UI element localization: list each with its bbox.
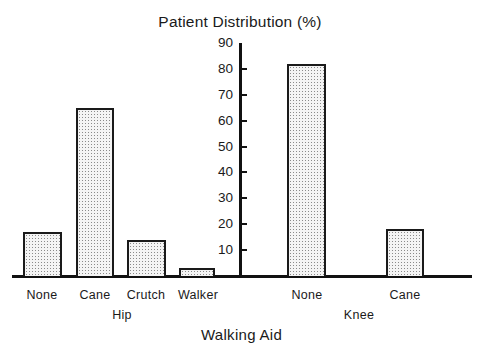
y-tick-mark — [241, 146, 247, 148]
bar-hip-walker — [179, 268, 215, 276]
y-tick-mark — [241, 249, 247, 251]
category-label-hip-none: None — [12, 288, 72, 302]
y-tick-label: 10 — [193, 243, 233, 257]
bar-knee-none — [287, 64, 326, 276]
bar-hip-cane — [76, 108, 114, 276]
y-tick-mark — [241, 223, 247, 225]
y-tick-mark — [241, 94, 247, 96]
category-label-hip-walker: Walker — [168, 288, 228, 302]
x-axis-title: Walking Aid — [0, 326, 483, 343]
y-tick-mark — [241, 120, 247, 122]
y-tick-label: 40 — [193, 165, 233, 179]
bar-hip-none — [23, 232, 62, 276]
bar-hip-crutch — [127, 240, 166, 276]
group-label-hip: Hip — [92, 308, 152, 322]
y-tick-mark — [241, 197, 247, 199]
y-tick-label: 80 — [193, 62, 233, 76]
bar-knee-cane — [386, 229, 424, 276]
y-tick-label: 70 — [193, 88, 233, 102]
y-axis — [239, 43, 242, 278]
chart-title: Patient Distribution (%) — [0, 13, 480, 31]
category-label-knee-cane: Cane — [375, 288, 435, 302]
y-tick-label: 50 — [193, 140, 233, 154]
y-tick-label: 20 — [193, 217, 233, 231]
group-label-knee: Knee — [329, 308, 389, 322]
y-tick-label: 60 — [193, 114, 233, 128]
y-tick-label: 30 — [193, 191, 233, 205]
y-tick-label: 90 — [193, 36, 233, 50]
y-tick-mark — [241, 171, 247, 173]
y-tick-mark — [241, 68, 247, 70]
category-label-hip-crutch: Crutch — [116, 288, 176, 302]
category-label-knee-none: None — [277, 288, 337, 302]
